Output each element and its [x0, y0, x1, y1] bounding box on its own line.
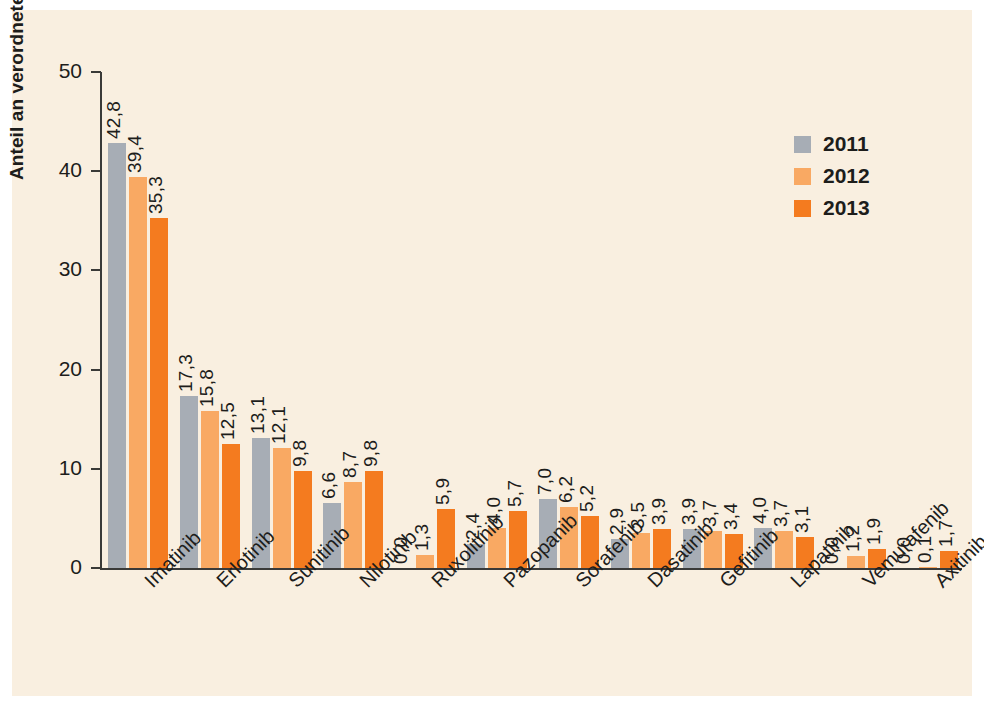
bar-value-label: 3,4: [720, 503, 742, 530]
x-axis-label-vemurafenib: Vemurafenib: [858, 576, 874, 592]
bar-value-label: 3,1: [791, 506, 813, 533]
legend-item-2011: 2011: [794, 128, 944, 160]
legend-swatch-icon: [794, 168, 811, 185]
bar-nilotinib-2012: [344, 482, 362, 568]
legend-label: 2012: [823, 164, 870, 188]
bar-group: 17,315,812,5: [180, 72, 240, 568]
x-axis-label-ruxolitinib: Ruxolitinib: [427, 576, 443, 592]
legend-label: 2013: [823, 196, 870, 220]
bar-value-label: 5,9: [432, 478, 454, 505]
y-axis-tick-label: 30: [38, 257, 82, 281]
bar-value-label: 5,2: [576, 485, 598, 512]
x-axis-label-sunitinib: Sunitinib: [284, 576, 300, 592]
y-axis-tick-label: 0: [38, 555, 82, 579]
bar-group: 3,93,73,4: [683, 72, 743, 568]
bar-value-label: 6,6: [318, 471, 340, 498]
bar-group: 7,06,25,2: [539, 72, 599, 568]
bar-sunitinib-2012: [273, 448, 291, 568]
bar-value-label: 35,3: [145, 176, 167, 214]
x-axis-label-pazopanib: Pazopanib: [499, 576, 515, 592]
x-axis-label-axitinib: Axitinib: [930, 576, 946, 592]
bar-group: 0,01,35,9: [395, 72, 455, 568]
x-axis-label-gefitinib: Gefitinib: [715, 576, 731, 592]
y-axis-tick-label: 20: [38, 357, 82, 381]
bar-value-label: 42,8: [103, 101, 125, 139]
bar-value-label: 3,9: [648, 498, 670, 525]
bar-value-label: 3,7: [770, 500, 792, 527]
bar-group: 42,839,435,3: [108, 72, 168, 568]
bar-value-label: 12,5: [217, 402, 239, 440]
legend-swatch-icon: [794, 200, 811, 217]
x-axis-categories: ImatinibErlotinibSunitinibNilotinibRuxol…: [100, 570, 962, 700]
x-axis-label-dasatinib: Dasatinib: [643, 576, 659, 592]
bar-value-label: 5,7: [504, 480, 526, 507]
bar-value-label: 12,1: [268, 406, 290, 444]
legend-swatch-icon: [794, 136, 811, 153]
y-axis-tick-label: 50: [38, 59, 82, 83]
bar-vemurafenib-2012: [847, 556, 865, 568]
x-axis-label-imatinib: Imatinib: [140, 576, 156, 592]
bar-imatinib-2012: [129, 177, 147, 568]
bar-ruxolitinib-2012: [416, 555, 434, 568]
bar-value-label: 17,3: [175, 354, 197, 392]
bar-value-label: 9,8: [289, 439, 311, 466]
bar-group: 2,93,53,9: [611, 72, 671, 568]
bar-value-label: 8,7: [339, 450, 361, 477]
legend-label: 2011: [823, 132, 869, 156]
bar-value-label: 7,0: [534, 467, 556, 494]
bar-value-label: 9,8: [360, 439, 382, 466]
chart-panel: Anteil an verordneten DDD (%) 0102030405…: [12, 10, 972, 696]
bar-value-label: 13,1: [247, 396, 269, 434]
x-axis-label-lapatinib: Lapatinib: [786, 576, 802, 592]
bar-imatinib-2011: [108, 143, 126, 568]
bar-group: 13,112,19,8: [252, 72, 312, 568]
bar-imatinib-2013: [150, 218, 168, 568]
chart-legend: 201120122013: [794, 128, 944, 224]
legend-item-2012: 2012: [794, 160, 944, 192]
bar-value-label: 6,2: [555, 475, 577, 502]
y-axis-tick-label: 40: [38, 158, 82, 182]
x-axis-label-nilotinib: Nilotinib: [355, 576, 371, 592]
x-axis-label-sorafenib: Sorafenib: [571, 576, 587, 592]
bar-value-label: 15,8: [196, 369, 218, 407]
y-axis-tick-label: 10: [38, 456, 82, 480]
bar-value-label: 1,9: [863, 518, 885, 545]
x-axis-label-erlotinib: Erlotinib: [212, 576, 228, 592]
bar-value-label: 39,4: [124, 135, 146, 173]
bar-axitinib-2012: [919, 567, 937, 568]
bar-group: 6,68,79,8: [323, 72, 383, 568]
bar-group: 2,44,05,7: [467, 72, 527, 568]
bar-value-label: 4,0: [749, 497, 771, 524]
chart-figure: Anteil an verordneten DDD (%) 0102030405…: [0, 0, 984, 716]
legend-item-2013: 2013: [794, 192, 944, 224]
y-axis-title: Anteil an verordneten DDD (%): [6, 0, 28, 180]
